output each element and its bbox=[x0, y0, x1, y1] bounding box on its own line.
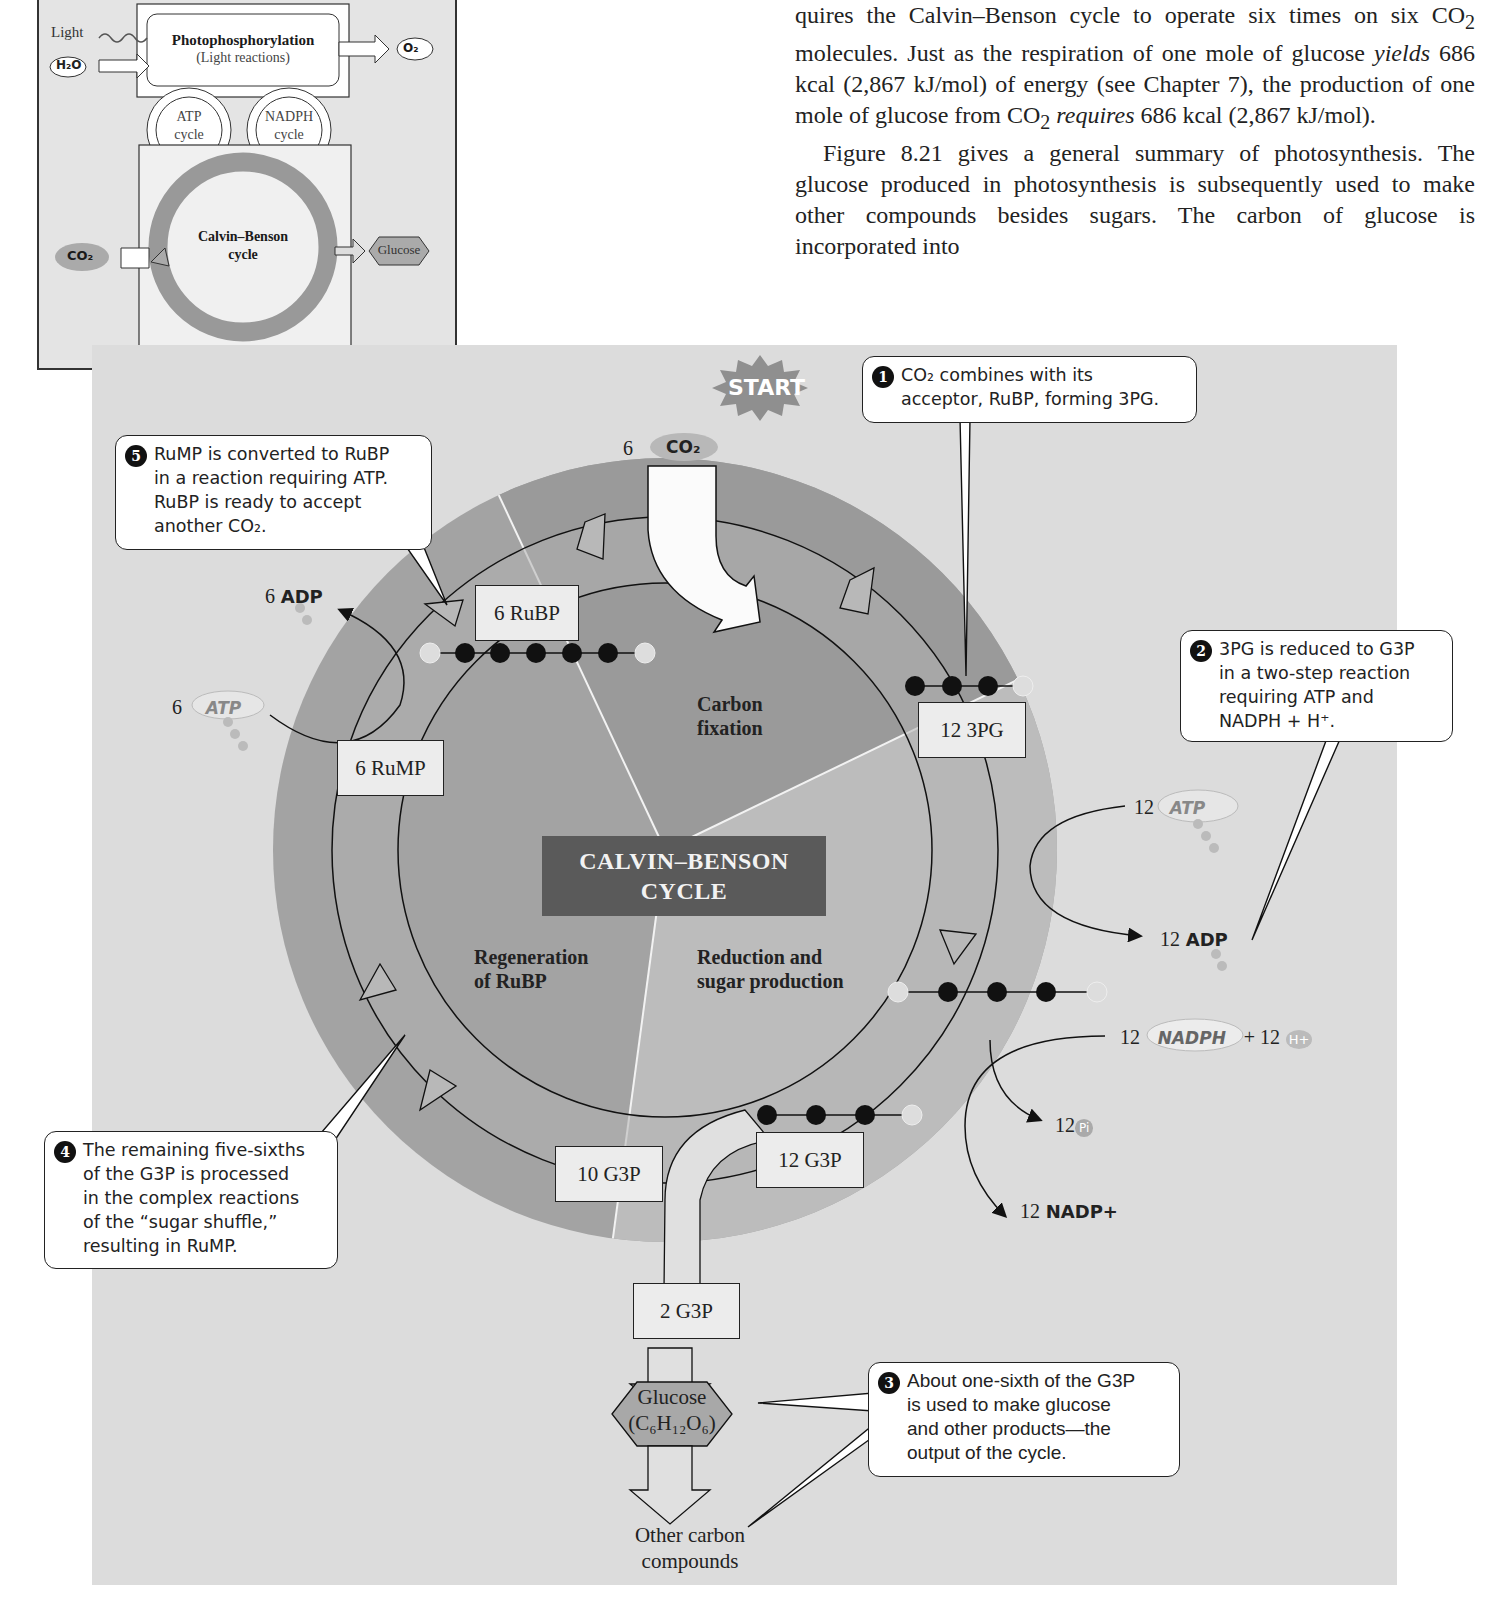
box-12-g3p: 12 G3P bbox=[756, 1132, 864, 1188]
callout-step-2: 2 3PG is reduced to G3Pin a two-step rea… bbox=[1180, 630, 1453, 742]
sector-label-regeneration: Regenerationof RuBP bbox=[474, 945, 588, 993]
start-label: START bbox=[728, 375, 792, 400]
sector-label-carbon-fixation: Carbonfixation bbox=[697, 692, 763, 740]
callout-step-5: 5 RuMP is converted to RuBPin a reaction… bbox=[115, 435, 432, 550]
box-2-g3p: 2 G3P bbox=[633, 1283, 740, 1339]
callout-step-1: 1 CO₂ combines with itsacceptor, RuBP, f… bbox=[862, 356, 1197, 423]
nadph12-molecule: 12 NADPH + 12 H+ bbox=[1120, 1026, 1312, 1049]
co2-count: 6 bbox=[623, 437, 633, 460]
center-title-box: CALVIN–BENSON CYCLE bbox=[542, 836, 826, 916]
box-10-g3p: 10 G3P bbox=[555, 1146, 663, 1202]
step-3-badge: 3 bbox=[878, 1372, 900, 1394]
box-12-3pg: 12 3PG bbox=[918, 702, 1026, 758]
atp6-molecule: 6 ATP bbox=[172, 696, 241, 719]
calvin-cycle-diagram bbox=[0, 0, 1492, 1610]
other-carbon-compounds-label: Other carbon compounds bbox=[600, 1522, 780, 1574]
atp12-molecule: 12 ATP bbox=[1134, 796, 1205, 819]
callout-step-3: 3 About one-sixth of the G3Pis used to m… bbox=[868, 1362, 1180, 1477]
box-6-rump: 6 RuMP bbox=[337, 740, 444, 796]
adp6-molecule: 6 ADP bbox=[265, 585, 323, 608]
step-2-badge: 2 bbox=[1190, 640, 1212, 662]
step-1-badge: 1 bbox=[872, 366, 894, 388]
co2-label: CO₂ bbox=[666, 437, 700, 457]
center-title-line2: CYCLE bbox=[542, 876, 826, 906]
down-arrow-to-other-icon bbox=[630, 1446, 710, 1524]
nadp12-molecule: 12 NADP+ bbox=[1020, 1200, 1118, 1223]
step-5-badge: 5 bbox=[125, 445, 147, 467]
step-4-badge: 4 bbox=[54, 1141, 76, 1163]
adp12-molecule: 12 ADP bbox=[1160, 928, 1228, 951]
box-6-rubp: 6 RuBP bbox=[475, 585, 579, 641]
glucose-label: Glucose (C₆H₁₂O₆) bbox=[612, 1384, 732, 1436]
pi12-molecule: 12Pi bbox=[1055, 1114, 1093, 1137]
sector-label-reduction: Reduction andsugar production bbox=[697, 945, 844, 993]
center-title-line1: CALVIN–BENSON bbox=[542, 846, 826, 876]
callout-step-4: 4 The remaining five-sixthsof the G3P is… bbox=[44, 1131, 338, 1269]
